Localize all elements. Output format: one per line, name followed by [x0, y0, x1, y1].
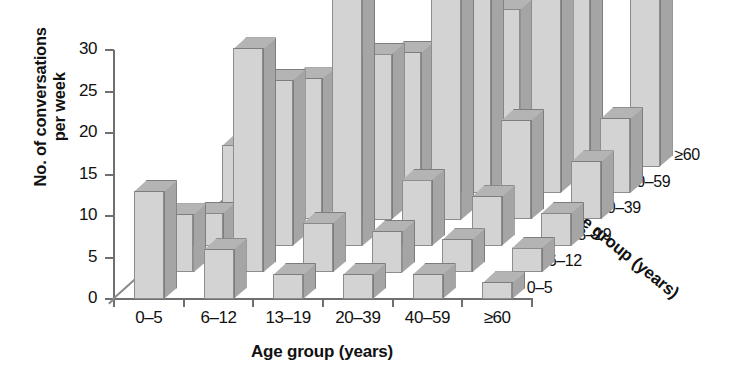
x-tick-mark: [252, 298, 254, 307]
bar-3d: [413, 263, 456, 299]
bar-face: [134, 191, 164, 299]
x-axis-title: Age group (years): [113, 342, 531, 362]
bar-3d: [482, 271, 525, 299]
bar-face: [413, 274, 443, 299]
bar-3d: [134, 180, 177, 299]
bar-face: [512, 248, 542, 273]
bar-face: [332, 0, 362, 246]
x-tick-label: 20–39: [335, 308, 380, 328]
bar-3d: [343, 263, 386, 299]
bar-side: [660, 0, 673, 167]
x-tick-mark: [322, 298, 324, 307]
x-tick-label: ≥60: [484, 308, 511, 328]
x-tick-mark: [183, 298, 185, 307]
bar-side: [362, 0, 375, 246]
chart-figure: No. of conversations per week 0510152025…: [0, 0, 742, 381]
x-tick-mark: [392, 298, 394, 307]
bar-side: [601, 150, 614, 219]
bar-3d: [332, 0, 375, 246]
bar-face: [204, 249, 234, 299]
x-tick-label: 0–5: [135, 308, 162, 328]
bar-3d: [512, 237, 555, 273]
x-tick-mark: [461, 298, 463, 307]
bar-side: [630, 107, 643, 193]
bar-face: [482, 282, 512, 299]
bar-face: [343, 274, 373, 299]
bar-side: [164, 180, 177, 299]
x-tick-label: 13–19: [266, 308, 311, 328]
x-tick-label: 40–59: [405, 308, 450, 328]
bar-3d: [273, 263, 316, 299]
bar-3d: [204, 238, 247, 299]
bar-side: [263, 37, 276, 272]
bar-face: [273, 274, 303, 299]
x-tick-label: 6–12: [200, 308, 236, 328]
x-tick-mark: [531, 298, 533, 307]
